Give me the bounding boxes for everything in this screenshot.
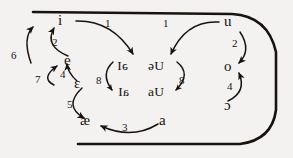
- arrow-step-1-back: [171, 22, 219, 54]
- step-label-5: 5: [67, 99, 73, 110]
- step-label-4-back: 4: [227, 81, 233, 92]
- step-label-3: 3: [122, 122, 128, 133]
- vowel-label-o: o: [224, 59, 232, 74]
- diphthong-label-a-u: aU: [148, 85, 164, 99]
- step-label-2-front: 2: [52, 37, 58, 48]
- arrow-step-2-back: [239, 32, 246, 63]
- vowel-label-open-o: ɔ: [224, 98, 231, 113]
- vowel-label-open-e: ɛ: [74, 76, 80, 91]
- diphthong-label-schwa-i: əI: [117, 59, 128, 73]
- vowel-shift-diagram: i e ɛ æ u o ɔ a əI əU aI aU 1 1 2 2 3 4 …: [0, 0, 293, 158]
- vowel-label-u: u: [224, 14, 232, 29]
- step-label-4-front: 4: [60, 69, 66, 80]
- vowel-label-i: i: [58, 13, 62, 28]
- step-label-1-front: 1: [105, 18, 111, 29]
- vowel-label-e: e: [64, 53, 71, 68]
- diphthong-label-a-i: aI: [118, 85, 129, 99]
- diphthong-glyph-schwa-i: əI: [117, 59, 128, 73]
- arrow-step-8-front: [106, 62, 113, 90]
- vowel-label-a: a: [159, 113, 166, 128]
- diphthong-label-schwa-u: əU: [148, 59, 164, 73]
- vowel-chart-canvas: [0, 0, 293, 158]
- arrow-step-6: [27, 27, 33, 63]
- vowel-label-ae: æ: [80, 113, 90, 128]
- step-label-7: 7: [35, 74, 41, 85]
- step-label-8-back: 8: [179, 75, 185, 86]
- step-label-1-back: 1: [163, 18, 169, 29]
- arrow-step-7: [48, 66, 57, 85]
- step-label-6: 6: [11, 50, 17, 61]
- diphthong-glyph-a-i: aI: [118, 85, 129, 99]
- step-label-8-front: 8: [96, 75, 102, 86]
- arrow-step-3: [101, 124, 158, 133]
- step-label-2-back: 2: [232, 38, 238, 49]
